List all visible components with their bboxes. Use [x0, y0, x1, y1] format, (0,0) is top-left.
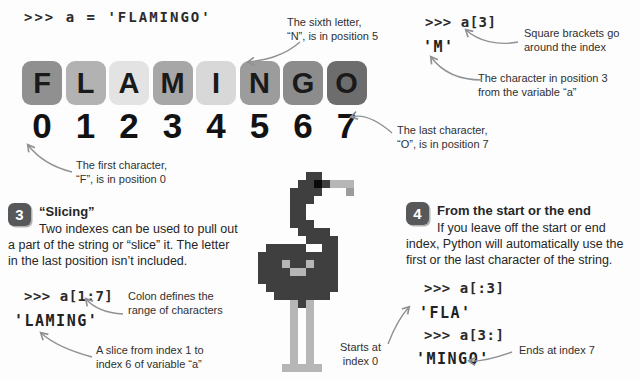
note-sixth-letter: The sixth letter, “N”, is in position 5 — [287, 15, 378, 44]
index-number-2: 2 — [109, 104, 149, 148]
code-assignment: >>> a = 'FLAMINGO' — [24, 9, 212, 25]
letter-tile-a: A — [109, 61, 149, 105]
code-slice-1-7: >>> a[1:7] — [24, 288, 113, 304]
code-slice-from-3: >>> a[3:] — [424, 327, 504, 343]
note-first-char: The first character, “F”, is in position… — [76, 158, 167, 187]
section-4-body: If you leave off the start or end index,… — [406, 221, 623, 267]
section-3-title: “Slicing” — [8, 203, 242, 221]
index-number-4: 4 — [196, 104, 236, 148]
letter-tile-n: N — [240, 61, 280, 105]
index-numbers: 01234567 — [22, 104, 367, 148]
arrow-position-3-to-result — [431, 57, 482, 80]
result-slice-to-3: 'FLA' — [419, 304, 472, 322]
index-number-7: 7 — [327, 104, 367, 148]
arrow-starts-at-to-fla — [388, 307, 409, 344]
note-square-brackets: Square brackets go around the index — [524, 26, 619, 55]
note-last-char: The last character, “O”, is in position … — [397, 123, 489, 152]
letter-tile-l: L — [66, 61, 106, 105]
section-slicing: 3 “Slicing” Two indexes can be used to p… — [8, 203, 242, 269]
index-number-5: 5 — [240, 104, 280, 148]
letter-tile-o: O — [327, 61, 367, 105]
letter-tiles: FLAMINGO — [22, 61, 367, 105]
note-ends-at: Ends at index 7 — [519, 343, 595, 357]
result-slice-from-3: 'MINGO' — [416, 350, 490, 368]
arrow-slice-range-to-result — [41, 333, 92, 357]
arrow-square-brackets-to-index — [466, 30, 518, 43]
flamingo-string-index-diagram: >>> a = 'FLAMINGO' The sixth letter, “N”… — [0, 0, 640, 379]
code-slice-to-3: >>> a[:3] — [424, 280, 504, 296]
letter-tile-m: M — [153, 61, 193, 105]
arrow-first-char-to-0 — [28, 145, 72, 172]
letter-tile-g: G — [283, 61, 323, 105]
section-4-badge: 4 — [406, 202, 429, 225]
section-start-end: 4 From the start or the end If you leave… — [406, 202, 634, 268]
code-index-3: >>> a[3] — [425, 14, 496, 30]
letter-tile-i: I — [196, 61, 236, 105]
result-index-3: 'M' — [423, 38, 455, 56]
index-number-3: 3 — [153, 104, 193, 148]
index-number-6: 6 — [283, 104, 323, 148]
note-colon: Colon defines the range of characters — [128, 289, 223, 318]
section-4-title: From the start or the end — [406, 202, 634, 220]
section-3-body: Two indexes can be used to pull out a pa… — [8, 222, 238, 268]
note-position-3: The character in position 3 from the var… — [478, 71, 608, 100]
note-slice-range: A slice from index 1 to index 6 of varia… — [96, 343, 204, 372]
index-number-0: 0 — [22, 104, 62, 148]
letter-tile-f: F — [22, 61, 62, 105]
arrow-sixth-letter-to-n-tile — [248, 42, 300, 62]
note-starts-at: Starts at index 0 — [340, 340, 381, 369]
section-3-badge: 3 — [8, 203, 31, 226]
result-slice-1-7: 'LAMING' — [14, 312, 98, 330]
index-number-1: 1 — [66, 104, 106, 148]
